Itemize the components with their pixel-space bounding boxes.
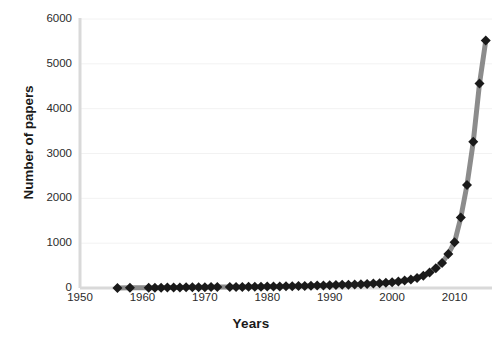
gridlines <box>80 19 492 243</box>
data-point-marker <box>475 79 485 89</box>
data-point-marker <box>456 213 466 223</box>
data-point-marker <box>112 283 122 293</box>
plot-area <box>0 0 502 344</box>
data-point-marker <box>481 36 491 46</box>
chart-container: Number of papers 01000200030004000500060… <box>0 0 502 344</box>
data-point-markers <box>112 36 490 293</box>
data-series-line <box>117 41 485 288</box>
x-axis-title: Years <box>0 316 502 331</box>
data-point-marker <box>462 180 472 190</box>
series-line <box>117 41 485 288</box>
data-point-marker <box>125 283 135 293</box>
data-point-marker <box>212 282 222 292</box>
data-point-marker <box>468 137 478 147</box>
